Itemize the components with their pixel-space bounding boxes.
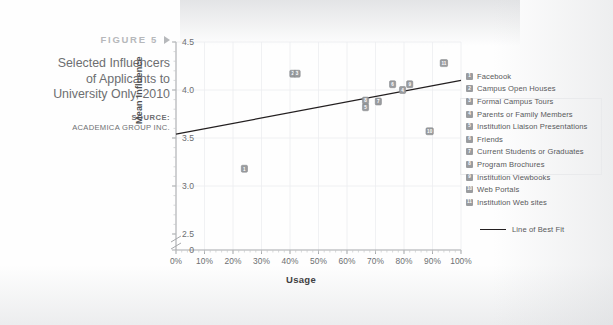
data-point-marker[interactable]: 6 (390, 81, 396, 88)
legend-item-label: Formal Campus Tours (477, 97, 553, 106)
legend-item-label: Current Students or Graduates (477, 147, 584, 156)
marker-number: 10 (427, 129, 433, 134)
y-tick-label: 3.0 (168, 181, 194, 191)
legend-marker-icon: 11 (466, 199, 473, 206)
y-tick-label: 4.0 (168, 85, 194, 95)
legend-marker-icon: 5 (466, 123, 473, 130)
y-tick-label: 2.5 (168, 229, 194, 239)
legend-marker-icon: 7 (466, 148, 473, 155)
data-point-marker[interactable]: 7 (375, 98, 381, 105)
x-tick-label: 40% (275, 256, 305, 266)
x-tick-label: 20% (218, 256, 248, 266)
legend-fit-label: Line of Best Fit (512, 225, 564, 234)
legend-item-label: Program Brochures (477, 160, 545, 169)
legend-item-label: Web Portals (477, 185, 519, 194)
legend-item: 9Institution Viewbooks (466, 171, 606, 184)
legend-marker-icon: 10 (466, 186, 473, 193)
chart-plot-area: Mean Influence Usage 1234567891011 4.54.… (136, 28, 466, 290)
x-tick-label: 70% (361, 256, 391, 266)
y-tick-label: 0 (168, 245, 194, 255)
data-point-marker[interactable]: 4 (399, 87, 405, 94)
x-tick-label: 90% (418, 256, 448, 266)
marker-number: 8 (364, 98, 367, 103)
marker-number: 7 (377, 99, 380, 104)
legend-item-label: Institution Viewbooks (477, 173, 550, 182)
data-point-marker[interactable]: 1 (241, 165, 247, 172)
legend-marker-icon: 3 (466, 98, 473, 105)
line-swatch-icon (480, 229, 506, 230)
figure-page: FIGURE 5 Selected Influencers of Applica… (0, 0, 613, 325)
x-tick-label: 0% (161, 256, 191, 266)
marker-number: 1 (243, 167, 246, 172)
legend-item: 1Facebook (466, 70, 606, 83)
legend-item: 11Institution Web sites (466, 196, 606, 209)
legend-item: 8Program Brochures (466, 158, 606, 171)
legend-item-line-of-best-fit: Line of Best Fit (480, 225, 606, 234)
legend-marker-icon: 8 (466, 161, 473, 168)
data-point-marker[interactable]: 5 (362, 104, 368, 111)
legend-item: 10Web Portals (466, 183, 606, 196)
legend-item: 2Campus Open Houses (466, 83, 606, 96)
x-tick-label: 80% (389, 256, 419, 266)
data-point-marker[interactable]: 8 (362, 97, 368, 104)
legend-item: 7Current Students or Graduates (466, 146, 606, 159)
marker-number: 11 (441, 61, 446, 66)
y-tick-label: 3.5 (168, 133, 194, 143)
legend-item-label: Friends (477, 135, 503, 144)
legend-item-label: Campus Open Houses (477, 84, 556, 93)
x-tick-label: 10% (190, 256, 220, 266)
marker-number: 6 (391, 82, 394, 87)
x-tick-label: 100% (446, 256, 476, 266)
data-point-marker[interactable]: 11 (440, 60, 447, 67)
marker-number: 3 (296, 71, 299, 76)
data-point-marker[interactable]: 10 (426, 128, 433, 135)
y-tick-label: 4.5 (168, 37, 194, 47)
x-tick-label: 60% (332, 256, 362, 266)
legend-item: 6Friends (466, 133, 606, 146)
legend-item-label: Facebook (477, 72, 511, 81)
legend-item-label: Parents or Family Members (477, 110, 573, 119)
legend-marker-icon: 9 (466, 174, 473, 181)
legend-marker-icon: 1 (466, 73, 473, 80)
legend-item-list: 1Facebook2Campus Open Houses3Formal Camp… (466, 70, 606, 209)
data-point-marker[interactable]: 3 (294, 70, 300, 77)
legend-item: 5Institution Liaison Presentations (466, 120, 606, 133)
legend-item-label: Institution Liaison Presentations (477, 122, 588, 131)
chart-legend: 1Facebook2Campus Open Houses3Formal Camp… (466, 70, 606, 234)
legend-marker-icon: 4 (466, 111, 473, 118)
x-tick-label: 50% (304, 256, 334, 266)
legend-marker-icon: 6 (466, 136, 473, 143)
legend-item-label: Institution Web sites (477, 198, 547, 207)
data-point-marker[interactable]: 9 (407, 81, 413, 88)
marker-number: 5 (364, 105, 367, 110)
legend-marker-icon: 2 (466, 85, 473, 92)
marker-number: 9 (408, 82, 411, 87)
legend-item: 3Formal Campus Tours (466, 95, 606, 108)
x-tick-label: 30% (247, 256, 277, 266)
marker-number: 4 (401, 88, 404, 93)
legend-item: 4Parents or Family Members (466, 108, 606, 121)
